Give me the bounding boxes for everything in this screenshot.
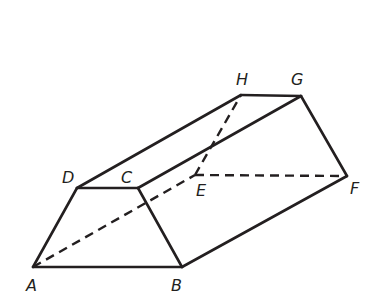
edge-da <box>33 188 77 267</box>
vertex-label-c: C <box>121 168 133 187</box>
edge-gf <box>301 96 347 176</box>
hidden-edge-ef <box>195 175 347 176</box>
edge-hg <box>241 95 301 96</box>
vertex-label-d: D <box>62 168 74 187</box>
vertex-label-g: G <box>291 70 303 89</box>
vertex-label-h: H <box>236 70 248 89</box>
vertex-label-f: F <box>350 179 360 198</box>
prism-diagram: A B C D E F G H <box>0 0 379 306</box>
vertex-label-a: A <box>25 276 37 295</box>
edge-bf <box>182 176 347 267</box>
vertex-label-b: B <box>171 276 182 295</box>
hidden-edges <box>33 95 347 267</box>
edge-cg <box>138 96 301 188</box>
edge-bc <box>138 188 182 267</box>
vertex-label-e: E <box>196 181 207 200</box>
